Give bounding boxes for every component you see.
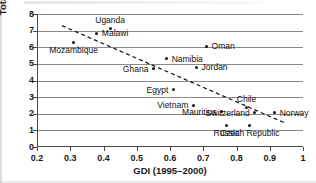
x-tick [203, 147, 204, 151]
x-tick [104, 147, 105, 151]
scan-artifact [24, 1, 264, 4]
x-tick [237, 147, 238, 151]
data-point-marker [205, 45, 208, 48]
plot-area: 012345678 0.20.30.40.50.60.70.80.91 Moza… [37, 14, 303, 147]
y-tick-label: 0 [23, 143, 34, 152]
data-point-label: Chile [237, 94, 256, 103]
x-tick-label: 0.3 [55, 154, 85, 163]
data-point-marker [152, 67, 155, 70]
data-point-marker [72, 41, 75, 44]
data-point-label: Mozambique [49, 46, 98, 55]
data-point-marker [95, 32, 98, 35]
y-tick-label: 4 [23, 76, 34, 85]
gridline [37, 31, 303, 32]
y-tick-label: 6 [23, 43, 34, 52]
chart-figure: Total fertility rate 012345678 0.20.30.4… [0, 0, 316, 183]
data-point-label: Oman [212, 42, 235, 51]
gridline [37, 64, 303, 65]
y-tick-label: 1 [23, 126, 34, 135]
gridline [37, 14, 303, 15]
data-point-label: Namibia [172, 55, 203, 64]
scan-edge-bottom [0, 181, 316, 183]
data-point-marker [225, 124, 228, 127]
x-tick [70, 147, 71, 151]
data-point-marker [195, 66, 198, 69]
data-point-label: Ghana [123, 65, 149, 74]
data-point-label: Switzerland [206, 109, 250, 118]
x-tick [170, 147, 171, 151]
gridline [37, 114, 303, 115]
data-point-label: Egypt [147, 85, 169, 94]
x-tick-label: 0.7 [188, 154, 218, 163]
x-tick-label: 1 [288, 154, 316, 163]
x-tick-label: 0.4 [89, 154, 119, 163]
y-tick-label: 5 [23, 59, 34, 68]
data-point-label: Czech Republic [220, 129, 280, 138]
y-tick-label: 3 [23, 93, 34, 102]
x-tick [37, 147, 38, 151]
gridline [37, 81, 303, 82]
x-tick-label: 0.2 [22, 154, 52, 163]
data-point-label: Jordan [202, 63, 228, 72]
gridline [37, 97, 303, 98]
y-axis-title: Total fertility rate [0, 0, 8, 28]
y-axis-line [37, 14, 38, 147]
x-axis-line [37, 146, 303, 147]
x-tick [270, 147, 271, 151]
data-point-marker [248, 124, 251, 127]
y-tick-label: 8 [23, 10, 34, 19]
x-tick [137, 147, 138, 151]
y-tick-label: 2 [23, 109, 34, 118]
data-point-label: Malawi [102, 29, 128, 38]
data-point-marker [172, 88, 175, 91]
data-point-marker [165, 57, 168, 60]
x-tick-label: 0.9 [255, 154, 285, 163]
x-tick [303, 147, 304, 151]
x-tick-label: 0.6 [155, 154, 185, 163]
x-tick-label: 0.8 [222, 154, 252, 163]
data-point-label: Norway [280, 109, 309, 118]
x-tick-label: 0.5 [122, 154, 152, 163]
x-axis-title: GDI (1995–2000) [37, 166, 303, 176]
y-tick-label: 7 [23, 26, 34, 35]
data-point-label: Uganda [95, 15, 125, 24]
